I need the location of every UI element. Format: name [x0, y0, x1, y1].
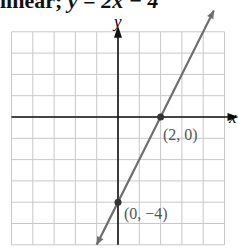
graph: x y (2, 0) (0, −4)	[0, 0, 238, 249]
point-label-y-intercept: (0, −4)	[124, 205, 168, 223]
y-axis-label: y	[112, 12, 122, 31]
point-label-x-intercept: (2, 0)	[163, 126, 198, 144]
x-axis-label: x	[228, 108, 237, 127]
